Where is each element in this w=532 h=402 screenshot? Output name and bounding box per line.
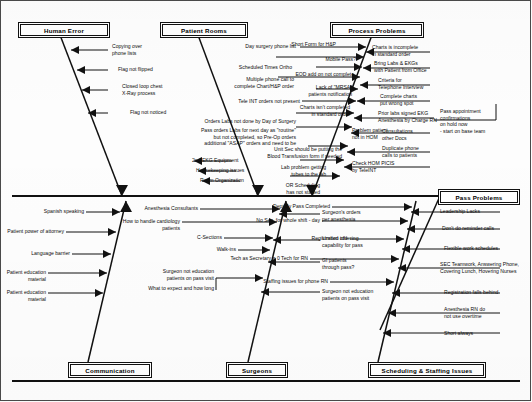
cause-label: Lack of "MRSA" patients notification [252, 84, 352, 97]
cause-label: Walk-ins [200, 246, 236, 253]
category-box-scheduling-staffing[interactable]: Scheduling & Staffing Issues [368, 362, 486, 378]
cause-label: Bring Labs & EKGs with Patient from Offi… [374, 60, 470, 73]
cause-label: Anesthesia RN do not use overtime [444, 306, 512, 319]
twigs-human-error [71, 46, 108, 117]
cause-label: Flexible work schedules [444, 245, 520, 252]
fishbone-diagram: Human Error Patient Rooms Process Proble… [0, 0, 532, 402]
cause-label: EOD add on not complete [252, 71, 354, 78]
cause-label: Registration falls behind [444, 289, 526, 296]
cause-label: Language barrier [20, 250, 70, 257]
cause-label: What to expect and how long [130, 285, 214, 292]
cause-label: Charts isn't completed in standard order [250, 104, 350, 117]
cause-label: GI patients through pass? [322, 257, 382, 270]
cause-label: Orders Labs not done by Day of Surgery [168, 118, 296, 125]
cause-label: OR Scheduling has not started [228, 182, 320, 195]
category-box-communication[interactable]: Communication [68, 362, 152, 378]
cause-label: Criteria for Telephone Interview [378, 77, 462, 90]
category-label-scheduling-staffing: Scheduling & Staffing Issues [382, 367, 473, 374]
cause-label: Unit Sec should be putting the Blood Tra… [214, 146, 342, 159]
cause-label: Dept By Pass Completed [256, 203, 330, 210]
cause-label: Surgeon not education patients on pass v… [322, 288, 392, 301]
category-label-surgeons: Surgeons [242, 367, 272, 374]
cause-label: Surgeon's orders per anesthesia [322, 209, 386, 222]
category-box-surgeons[interactable]: Surgeons [226, 362, 288, 378]
cause-label: SEC Teamwork, Answering Phone, Covering … [440, 261, 532, 274]
cause-label: Patient education material [0, 289, 46, 302]
category-box-human-error[interactable]: Human Error [18, 22, 110, 38]
category-box-process-problems[interactable]: Process Problems [330, 22, 424, 38]
rib-pass-problems [380, 196, 440, 330]
cause-label: Mobile Pass? [268, 56, 356, 63]
cause-label: Tech as Secretary = 0 Tech for RN [216, 255, 308, 262]
cause-label: Check HOM PICIS by TeleINT [352, 160, 420, 173]
cause-label: Patient power of attorney [4, 228, 64, 235]
cause-label: Staffing issues for phone RN [248, 278, 328, 285]
cause-label: Patient education material [0, 269, 46, 282]
category-box-patient-rooms[interactable]: Patient Rooms [160, 22, 248, 38]
cause-label: Lab problem getting tubes to the lab [230, 164, 326, 177]
cause-label: Scheduled Times Ortho [186, 64, 292, 71]
cause-label: Charts is incomplete in standard order [372, 44, 460, 57]
cause-label: Short Form for H&P [236, 41, 336, 48]
cause-label: Closed loop chest X-Ray process [122, 83, 188, 96]
cause-label: How to handle cardiology patients [110, 218, 180, 231]
category-label-pass-problems: Pass Problems [456, 194, 503, 201]
cause-label: Surgeon not education patients on pass v… [148, 268, 214, 281]
cause-label: Short always [444, 330, 504, 337]
cause-note-pass-appointment: Pass appointment confirmations on hold n… [440, 108, 526, 135]
category-label-human-error: Human Error [44, 27, 84, 34]
category-box-pass-problems[interactable]: Pass Problems [438, 189, 520, 205]
category-label-process-problems: Process Problems [348, 27, 405, 34]
cause-label: Copying over phone lists [112, 43, 172, 56]
cause-label: Registration idle [288, 235, 348, 242]
cause-label: Leadership Lacks [440, 208, 510, 215]
cause-label: Spanish speaking [28, 208, 84, 215]
cause-label: No Sec. for whole shift - day [238, 217, 320, 224]
cause-label: Flag not noticed [130, 109, 192, 116]
cause-label: Anesthesia Consultants [140, 205, 198, 212]
category-label-communication: Communication [85, 367, 134, 374]
cause-label: Duplicate phone calls to patients [382, 145, 456, 158]
cause-label: C-Sections [180, 234, 222, 241]
cause-label: Pass orders Labs for next day as "routin… [160, 127, 296, 147]
cause-label: Complete charts put wrong spot [380, 93, 460, 106]
cause-label: Flag not flipped [118, 66, 180, 73]
cause-label: Don't do reminder calls [442, 225, 524, 232]
category-label-patient-rooms: Patient Rooms [181, 27, 227, 34]
